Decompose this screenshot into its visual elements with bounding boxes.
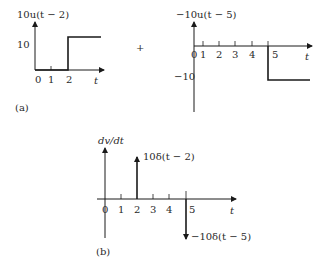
xtick-3: 3 xyxy=(232,50,238,60)
xtick-4: 4 xyxy=(166,205,172,215)
xtick-0: 0 xyxy=(191,50,197,60)
impulse-up-label: 10δ(t − 2) xyxy=(143,152,195,162)
xlabel-t: t xyxy=(94,76,98,86)
plus-operator: + xyxy=(136,43,144,53)
ytick-10: 10 xyxy=(17,40,30,50)
xtick-4: 4 xyxy=(249,50,255,60)
diagram-canvas xyxy=(0,0,322,269)
xtick-5: 5 xyxy=(189,205,195,215)
xtick-1: 1 xyxy=(48,75,54,85)
xtick-3: 3 xyxy=(150,205,156,215)
ylabel-10u-t-2: 10u(t − 2) xyxy=(17,10,69,20)
plot-10u-t-2 xyxy=(35,22,104,70)
xtick-0: 0 xyxy=(102,205,108,215)
ylabel-dv-dt: dv/dt xyxy=(98,136,124,146)
caption-a: (a) xyxy=(15,103,29,113)
xlabel-t: t xyxy=(305,52,309,62)
xtick-2: 2 xyxy=(134,205,140,215)
xtick-5: 5 xyxy=(272,50,278,60)
xtick-2: 2 xyxy=(66,75,72,85)
xtick-1: 1 xyxy=(118,205,124,215)
plot-neg10u-t-5 xyxy=(194,22,312,112)
ylabel-neg10u-t-5: −10u(t − 5) xyxy=(176,10,236,20)
impulse-down-label: −10δ(t − 5) xyxy=(191,232,251,242)
xtick-1: 1 xyxy=(200,50,206,60)
caption-b: (b) xyxy=(96,247,110,257)
step-signal xyxy=(35,37,101,70)
xtick-2: 2 xyxy=(216,50,222,60)
ytick-neg10: −10 xyxy=(174,72,195,82)
xtick-0: 0 xyxy=(35,75,41,85)
xlabel-t: t xyxy=(230,206,234,216)
